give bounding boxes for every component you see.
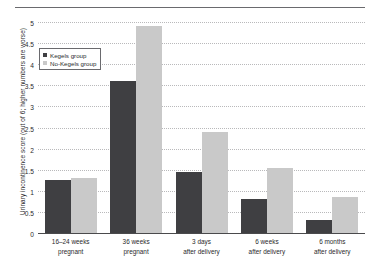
x-axis-category-line: 6 months (300, 237, 365, 247)
bar-no-kegels (267, 168, 293, 233)
legend-item-no-kegels: No-Kegels group (43, 59, 96, 67)
x-axis-labels: 16–24 weekspregnant36 weekspregnant3 day… (38, 237, 365, 265)
legend-label-kegels: Kegels group (50, 52, 86, 59)
y-axis-tick-label: 3.5 (25, 83, 34, 90)
gridline: 0 (38, 233, 365, 234)
x-axis-category-line: 36 weeks (103, 237, 168, 247)
bar-group (176, 22, 228, 233)
bar-no-kegels (332, 197, 358, 233)
y-axis-tick-label: 2 (30, 146, 34, 153)
x-axis-category-label: 6 monthsafter delivery (300, 237, 365, 256)
bar-kegels (45, 180, 71, 233)
x-axis-category-line: pregnant (38, 247, 103, 257)
x-axis-category-line: after delivery (300, 247, 365, 257)
x-axis-category-line: 3 days (169, 237, 234, 247)
y-axis-tick-label: 1 (30, 188, 34, 195)
bar-group (110, 22, 162, 233)
x-axis-category-label: 6 weeksafter delivery (234, 237, 299, 256)
bar-group (306, 22, 358, 233)
legend-item-kegels: Kegels group (43, 51, 96, 59)
bar-no-kegels (202, 132, 228, 233)
x-axis-category-line: after delivery (169, 247, 234, 257)
y-axis-tick-label: 0 (30, 231, 34, 238)
y-axis-tick-label: 2.5 (25, 125, 34, 132)
bar-kegels (241, 199, 267, 233)
x-axis-category-line: pregnant (103, 247, 168, 257)
y-axis-tick-label: 4 (30, 62, 34, 69)
bar-no-kegels (136, 26, 162, 233)
x-axis-category-label: 3 daysafter delivery (169, 237, 234, 256)
chart-figure: Urinary incontinence score (out of 6; hi… (0, 0, 369, 266)
bar-no-kegels (71, 178, 97, 233)
y-axis-tick-label: 5 (30, 20, 34, 27)
bar-kegels (110, 81, 136, 233)
legend-swatch-icon-kegels (43, 53, 47, 57)
legend-label-no-kegels: No-Kegels group (50, 60, 96, 67)
bar-kegels (176, 172, 202, 233)
x-axis-category-label: 16–24 weekspregnant (38, 237, 103, 256)
chart-legend: Kegels group No-Kegels group (39, 48, 101, 70)
y-axis-tick-label: 3 (30, 104, 34, 111)
y-axis-tick-label: 1.5 (25, 167, 34, 174)
bar-group (241, 22, 293, 233)
y-axis-tick-label: 0.5 (25, 209, 34, 216)
top-divider-rule (15, 7, 365, 8)
x-axis-category-label: 36 weekspregnant (103, 237, 168, 256)
bar-kegels (306, 220, 332, 233)
legend-swatch-icon-no-kegels (43, 61, 47, 65)
x-axis-category-line: 16–24 weeks (38, 237, 103, 247)
x-axis-category-line: 6 weeks (234, 237, 299, 247)
x-axis-category-line: after delivery (234, 247, 299, 257)
y-axis-tick-label: 4.5 (25, 41, 34, 48)
